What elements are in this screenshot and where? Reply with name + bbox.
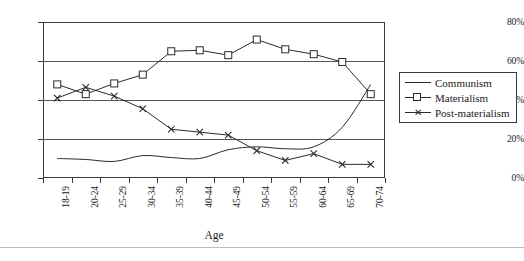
x-axis-title: Age: [43, 229, 385, 241]
line-key-icon: [404, 76, 432, 90]
square-marker: [339, 58, 346, 65]
square-marker-key-icon: [404, 91, 432, 105]
legend-item-post-materialism: ✕ Post-materialism: [404, 105, 510, 120]
cross-marker: [54, 95, 60, 101]
legend-label-materialism: Materialism: [432, 92, 488, 104]
cross-marker: [140, 106, 146, 112]
cross-marker: [83, 84, 89, 90]
square-marker: [253, 36, 260, 43]
series-post-materialism: [54, 84, 374, 167]
square-marker: [310, 51, 317, 58]
chart-legend: Communism Materialism ✕ Post-materialism: [399, 72, 517, 123]
legend-item-materialism: Materialism: [404, 90, 488, 105]
square-marker: [196, 47, 203, 54]
square-marker: [225, 52, 232, 59]
square-marker: [282, 46, 289, 53]
cross-marker-key-icon: ✕: [404, 106, 432, 120]
legend-label-communism: Communism: [432, 77, 492, 89]
series-line: [57, 84, 371, 161]
series-line: [57, 87, 371, 164]
cross-marker: [111, 93, 117, 99]
cross-marker: [254, 148, 260, 154]
cross-marker: [311, 150, 317, 156]
series-line: [57, 40, 371, 95]
cross-marker: [282, 157, 288, 163]
chart-figure: 0%20%40%60%80% 18-1920-2425-2930-3435-39…: [0, 0, 524, 261]
square-marker: [139, 71, 146, 78]
legend-label-post-materialism: Post-materialism: [432, 107, 510, 119]
series-plot-group: [0, 0, 524, 261]
square-marker: [367, 91, 374, 98]
square-marker: [54, 81, 61, 88]
series-materialism: [54, 36, 375, 98]
legend-item-communism: Communism: [404, 75, 492, 90]
figure-bottom-rule: [0, 247, 524, 248]
series-communism: [57, 84, 371, 161]
square-marker: [168, 48, 175, 55]
square-marker: [111, 80, 118, 87]
square-marker: [82, 91, 89, 98]
